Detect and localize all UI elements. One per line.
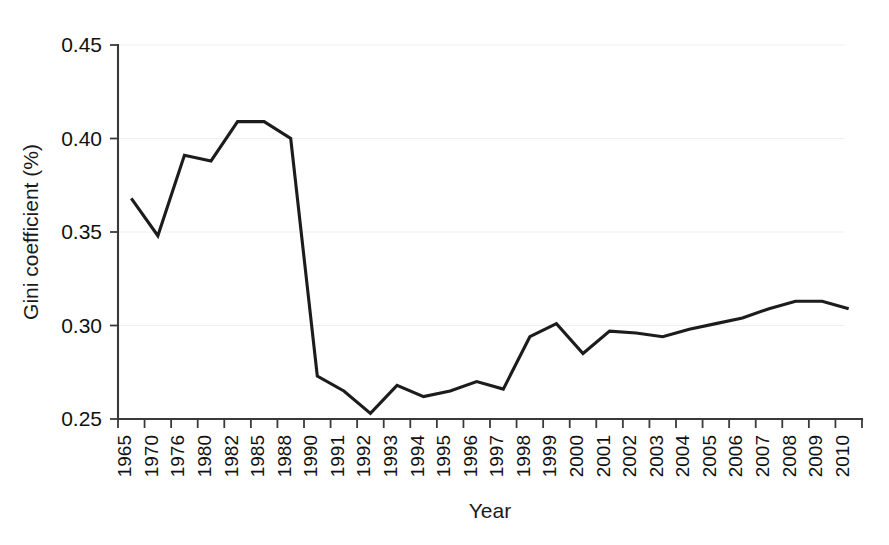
x-tick-label: 2006 [725,435,746,477]
x-tick-label: 1990 [300,435,321,477]
x-tick-label: 1988 [274,435,295,477]
x-tick-label: 1976 [167,435,188,477]
x-tick-label: 1993 [380,435,401,477]
x-tick-label: 1995 [433,435,454,477]
gini-coefficient-line-chart: 0.250.300.350.400.45 1965197019761980198… [0,0,889,545]
y-tick-label: 0.45 [61,33,102,56]
x-tick-label: 1970 [141,435,162,477]
x-tick-label: 1980 [194,435,215,477]
x-tick-label: 1965 [114,435,135,477]
x-tick-label: 1996 [460,435,481,477]
x-tick-label: 1985 [247,435,268,477]
x-tick-label: 1999 [539,435,560,477]
x-tick-label: 2007 [752,435,773,477]
x-tick-label: 1994 [407,435,428,478]
y-tick-label: 0.35 [61,220,102,243]
x-tick-label: 2008 [779,435,800,477]
y-tick-label: 0.30 [61,314,102,337]
x-tick-label: 1998 [513,435,534,477]
x-tick-label: 1991 [327,435,348,477]
x-tick-label: 2005 [699,435,720,477]
x-tick-label: 2010 [832,435,853,477]
x-tick-label: 1997 [486,435,507,477]
y-axis-title: Gini coefficient (%) [19,144,42,320]
x-tick-label: 1992 [353,435,374,477]
x-tick-label: 2000 [566,435,587,477]
y-tick-label: 0.40 [61,127,102,150]
x-axis-title: Year [469,499,511,522]
x-tick-label: 2009 [805,435,826,477]
x-tick-label: 2003 [646,435,667,477]
x-tick-label: 2001 [593,435,614,477]
chart-figure: 0.250.300.350.400.45 1965197019761980198… [0,0,889,545]
y-tick-label: 0.25 [61,407,102,430]
x-tick-label: 1982 [221,435,242,477]
x-tick-label: 2002 [619,435,640,477]
x-tick-label: 2004 [672,435,693,478]
